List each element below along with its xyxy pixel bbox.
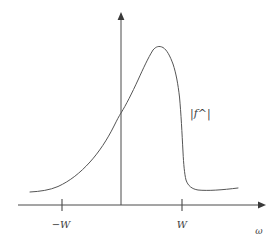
- figure-container: |f^| −W W ω: [0, 0, 277, 249]
- tick-label-w: W: [177, 219, 188, 230]
- y-axis-arrow-icon: [118, 12, 125, 20]
- tick-label-minus-w: −W: [52, 219, 71, 230]
- plot-canvas: |f^| −W W ω: [0, 0, 277, 249]
- x-axis-arrow-icon: [258, 202, 266, 209]
- x-axis-label: ω: [255, 226, 263, 236]
- curve-label: |f^|: [190, 107, 211, 121]
